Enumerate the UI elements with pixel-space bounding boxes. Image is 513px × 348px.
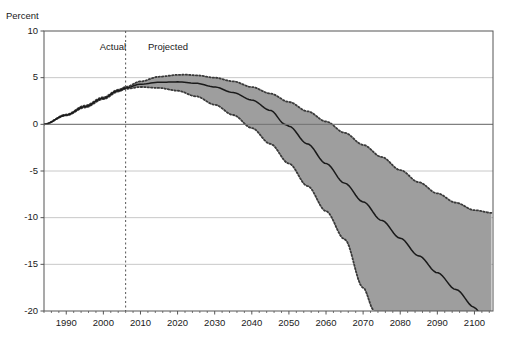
chart-container: Percent 1050-5-10-15-2019902000201020202… — [0, 0, 513, 348]
y-tick-label: -20 — [4, 305, 38, 316]
y-tick-label: 0 — [4, 118, 38, 129]
actual-label: Actual — [100, 41, 126, 52]
y-tick-label: -15 — [4, 258, 38, 269]
y-tick-label: 5 — [4, 71, 38, 82]
y-tick-label: 10 — [4, 25, 38, 36]
x-tick-label: 2100 — [451, 317, 497, 328]
y-tick-label: -10 — [4, 211, 38, 222]
projected-label: Projected — [148, 41, 188, 52]
y-tick-label: -5 — [4, 165, 38, 176]
plot-area — [0, 0, 513, 348]
